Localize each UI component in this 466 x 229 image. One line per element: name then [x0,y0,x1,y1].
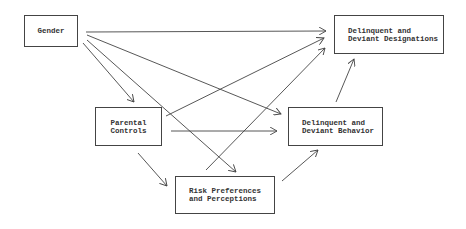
node-designations-line-2: Deviant Designations [348,35,438,43]
node-parental-line-1: Parental [110,119,146,127]
edge-parental-to-risk [138,153,167,186]
node-delinquent-designations: Delinquent and Deviant Designations [334,15,444,54]
node-behavior-line-2: Deviant Behavior [302,127,374,135]
edge-gender-to-behavior [87,35,281,114]
node-risk-line-1: Risk Preferences [189,187,261,195]
edge-gender-to-designations [86,31,326,32]
edge-risk-to-behavior [282,150,318,181]
node-gender-label: Gender [37,27,64,35]
node-behavior-line-1: Delinquent and [302,119,365,127]
node-designations-line-1: Delinquent and [348,27,411,35]
node-parental-line-2: Controls [110,127,146,135]
node-risk-line-2: and Perceptions [189,195,257,203]
node-risk-preferences: Risk Preferences and Perceptions [175,176,275,214]
node-delinquent-behavior: Delinquent and Deviant Behavior [288,107,383,146]
edge-behavior-to-designations [336,59,354,102]
edge-gender-to-risk [87,40,236,172]
node-parental-controls: Parental Controls [95,107,162,146]
edge-gender-to-parental [83,43,134,102]
node-gender: Gender [24,15,78,47]
